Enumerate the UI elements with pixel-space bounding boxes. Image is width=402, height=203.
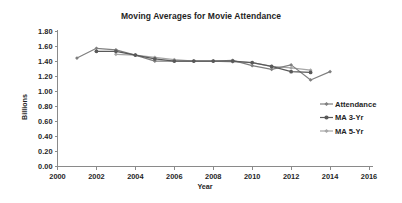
y-tick-label: 1.40 bbox=[38, 57, 52, 66]
chart-legend: AttendanceMA 3-YrMA 5-Yr bbox=[320, 100, 376, 136]
data-point-marker bbox=[95, 49, 99, 53]
y-tick-label: 1.60 bbox=[38, 42, 52, 51]
legend-label: MA 5-Yr bbox=[335, 127, 363, 136]
y-tick-label: 1.80 bbox=[38, 27, 52, 36]
data-point-marker bbox=[270, 64, 274, 68]
x-tick-label: 2014 bbox=[322, 172, 339, 181]
data-point-marker bbox=[133, 53, 137, 57]
data-point-marker bbox=[192, 59, 196, 63]
data-point-marker bbox=[211, 59, 215, 63]
data-point-marker bbox=[328, 70, 332, 74]
x-tick-label: 2012 bbox=[283, 172, 299, 181]
legend-marker bbox=[324, 129, 328, 133]
y-tick-label: 1.00 bbox=[38, 87, 52, 96]
x-tick-label: 2000 bbox=[49, 172, 65, 181]
chart-series-group bbox=[75, 46, 332, 81]
data-point-marker bbox=[324, 129, 328, 133]
data-point-marker bbox=[153, 57, 157, 61]
x-tick-label: 2006 bbox=[166, 172, 182, 181]
y-axis-tick-labels: 0.000.200.400.600.801.001.201.401.601.80 bbox=[38, 27, 52, 172]
x-tick-label: 2010 bbox=[244, 172, 260, 181]
chart-container: Moving Averages for Movie Attendance 0.0… bbox=[0, 0, 402, 203]
x-tick-label: 2016 bbox=[361, 172, 377, 181]
x-axis-title: Year bbox=[197, 182, 212, 191]
data-point-marker bbox=[75, 56, 79, 60]
y-tick-label: 0.00 bbox=[38, 162, 52, 171]
data-point-marker bbox=[250, 61, 254, 65]
series-ma-3-yr bbox=[95, 49, 313, 74]
data-point-marker bbox=[324, 115, 328, 119]
y-tick-label: 0.60 bbox=[38, 117, 52, 126]
y-tick-label: 0.20 bbox=[38, 147, 52, 156]
y-tick-label: 1.20 bbox=[38, 72, 52, 81]
y-tick-label: 0.40 bbox=[38, 132, 52, 141]
x-axis-tick-labels: 200020022004200620082010201220142016 bbox=[49, 172, 377, 181]
x-tick-label: 2002 bbox=[88, 172, 104, 181]
y-tick-label: 0.80 bbox=[38, 102, 52, 111]
legend-marker bbox=[324, 115, 328, 119]
data-point-marker bbox=[324, 102, 328, 106]
data-point-marker bbox=[172, 59, 176, 63]
legend-marker bbox=[324, 102, 328, 106]
legend-label: MA 3-Yr bbox=[335, 113, 363, 122]
y-axis-title: Billions bbox=[20, 94, 29, 120]
data-point-marker bbox=[114, 49, 118, 53]
data-point-marker bbox=[309, 71, 313, 75]
line-chart-plot: 0.000.200.400.600.801.001.201.401.601.80… bbox=[0, 0, 402, 203]
data-point-marker bbox=[289, 70, 293, 74]
legend-label: Attendance bbox=[335, 100, 376, 109]
data-point-marker bbox=[231, 59, 235, 63]
x-tick-label: 2008 bbox=[205, 172, 221, 181]
x-tick-label: 2004 bbox=[127, 172, 144, 181]
